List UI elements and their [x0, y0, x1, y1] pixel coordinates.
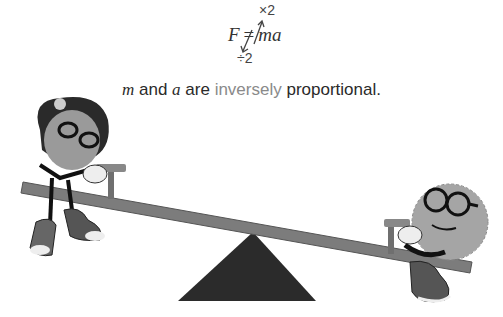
arrow-down-icon: [241, 30, 252, 52]
girl-character: [30, 97, 109, 256]
arrow-up-icon: [254, 21, 264, 44]
boy-character: [398, 184, 488, 302]
flower-icon: [54, 98, 66, 110]
seesaw-scene: [0, 0, 503, 317]
